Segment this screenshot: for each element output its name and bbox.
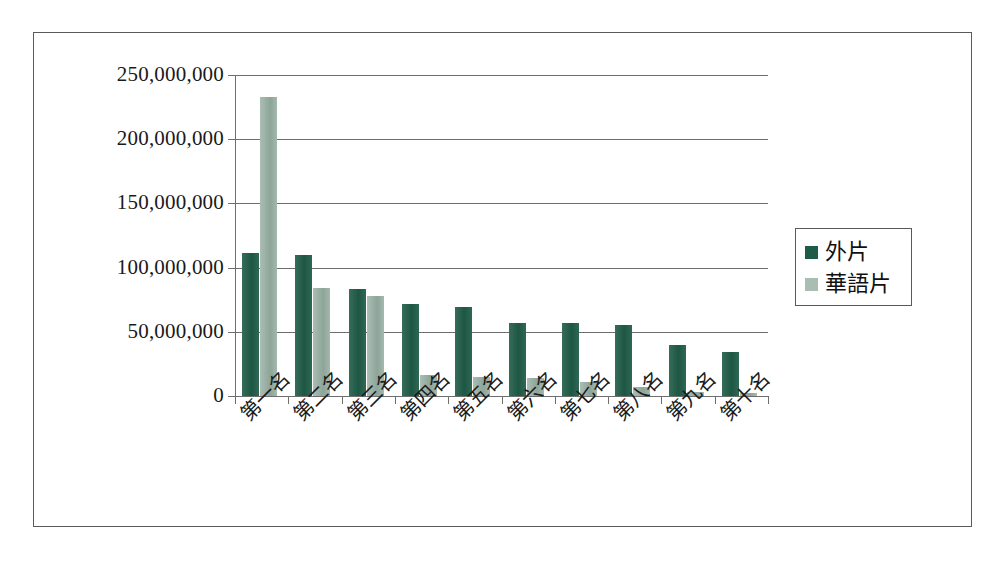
y-axis-tick-labels: 050,000,000100,000,000150,000,000200,000…	[0, 0, 224, 561]
plot-area	[235, 75, 768, 396]
legend-swatch-icon-series-1	[805, 278, 818, 291]
gridline	[235, 268, 768, 269]
x-axis-tick-mark	[555, 396, 556, 404]
x-axis-tick-mark	[661, 396, 662, 404]
bar-series-0-category-1	[295, 255, 312, 396]
y-axis-tick-label: 0	[213, 385, 224, 406]
gridline	[235, 75, 768, 76]
y-axis-tick-label: 150,000,000	[117, 192, 224, 213]
x-axis-tick-mark	[768, 396, 769, 404]
chart-figure: 050,000,000100,000,000150,000,000200,000…	[0, 0, 1005, 561]
legend-item-0[interactable]: 外片	[805, 236, 911, 268]
legend-label-series-1: 華語片	[825, 273, 891, 295]
x-axis-tick-mark	[288, 396, 289, 404]
bar-series-1-category-0	[260, 97, 277, 396]
y-axis-tick-mark	[228, 203, 235, 204]
y-axis-tick-mark	[228, 268, 235, 269]
legend-label-series-0: 外片	[825, 241, 869, 263]
x-axis-tick-mark	[342, 396, 343, 404]
x-axis-tick-mark	[235, 396, 236, 404]
bar-series-0-category-4	[455, 307, 472, 396]
bar-series-0-category-6	[562, 323, 579, 396]
y-axis-tick-mark	[228, 396, 235, 397]
y-axis-tick-mark	[228, 75, 235, 76]
y-axis-tick-label: 50,000,000	[128, 321, 225, 342]
x-axis-tick-mark	[502, 396, 503, 404]
chart-legend: 外片 華語片	[795, 228, 912, 306]
bar-series-0-category-5	[509, 323, 526, 396]
y-axis-tick-mark	[228, 139, 235, 140]
y-axis-tick-mark	[228, 332, 235, 333]
y-axis-tick-label: 100,000,000	[117, 257, 224, 278]
legend-swatch-icon-series-0	[805, 246, 818, 259]
gridline	[235, 203, 768, 204]
y-axis-tick-label: 200,000,000	[117, 128, 224, 149]
bar-series-0-category-3	[402, 304, 419, 396]
x-axis-tick-mark	[395, 396, 396, 404]
x-axis-tick-mark	[448, 396, 449, 404]
bar-series-0-category-7	[615, 325, 632, 396]
x-axis-tick-mark	[715, 396, 716, 404]
legend-item-1[interactable]: 華語片	[805, 268, 911, 300]
bar-series-0-category-2	[349, 289, 366, 396]
y-axis-tick-label: 250,000,000	[117, 64, 224, 85]
gridline	[235, 139, 768, 140]
x-axis-tick-mark	[608, 396, 609, 404]
bar-series-0-category-0	[242, 253, 259, 396]
